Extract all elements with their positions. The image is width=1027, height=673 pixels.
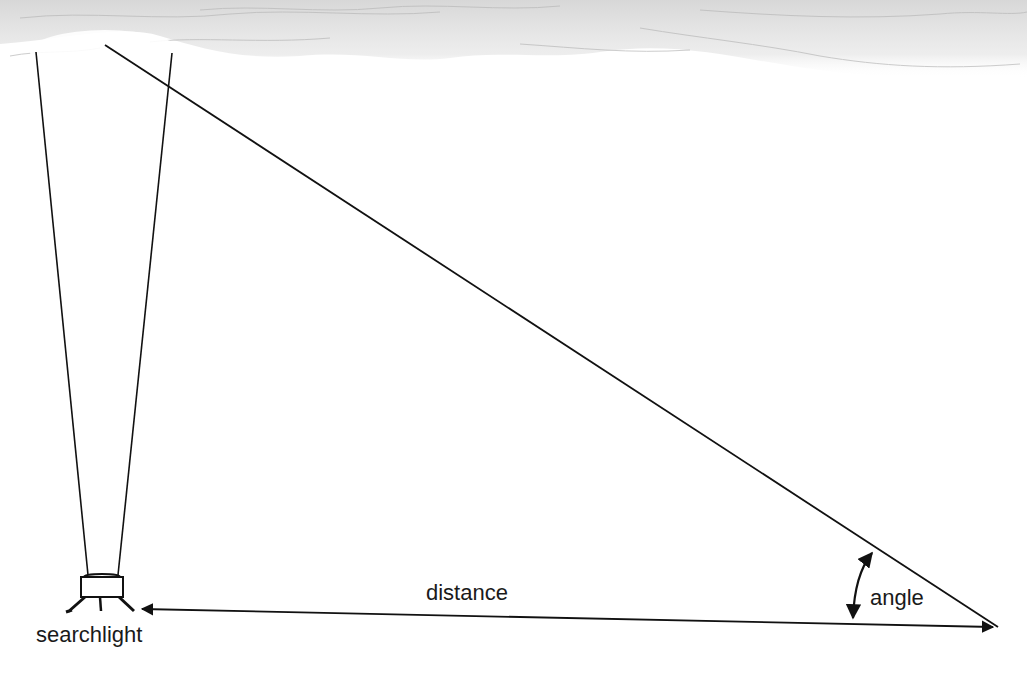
searchlight-label: searchlight <box>36 624 142 646</box>
clouds <box>0 0 1027 78</box>
distance-arrow <box>142 609 993 627</box>
searchlight-beam <box>36 52 172 575</box>
sight-line <box>105 45 998 627</box>
distance-label: distance <box>426 582 508 604</box>
searchlight-triangulation-diagram <box>0 0 1027 673</box>
searchlight-icon <box>66 574 134 612</box>
angle-label: angle <box>870 587 924 609</box>
